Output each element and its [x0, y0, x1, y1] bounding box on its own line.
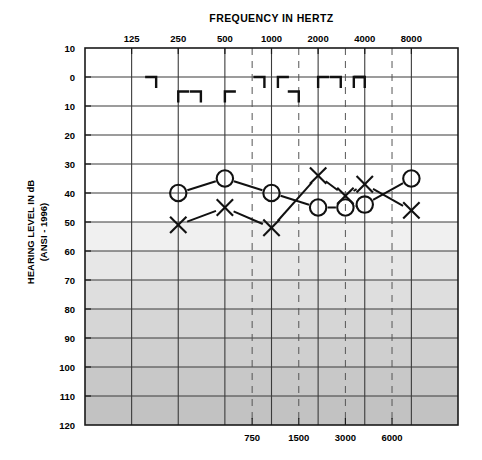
x-tick-label-2000: 2000: [308, 33, 329, 44]
y-tick-label-40: 40: [64, 188, 75, 199]
x-tick-label-8000: 8000: [401, 33, 422, 44]
y-tick-label-10: 10: [64, 101, 75, 112]
bone-conduction-bracket-8: [330, 77, 341, 88]
bone-conduction-bracket-5: [278, 77, 289, 88]
y-tick-label--10: 10: [64, 43, 75, 54]
y-tick-label-20: 20: [64, 130, 75, 141]
x-half-label-3000: 3000: [335, 432, 356, 443]
bone-conduction-bracket-7: [318, 77, 329, 88]
y-tick-label-70: 70: [64, 275, 75, 286]
x-tick-label-125: 125: [124, 33, 141, 44]
bone-conduction-bracket-3: [225, 92, 236, 103]
x-tick-label-4000: 4000: [354, 33, 375, 44]
chart-title: FREQUENCY IN HERTZ: [209, 12, 333, 24]
x-half-label-1500: 1500: [288, 432, 309, 443]
y-axis-title: HEARING LEVEL IN dB: [25, 180, 36, 284]
y-tick-label-90: 90: [64, 333, 75, 344]
bone-conduction-bracket-2: [190, 92, 201, 103]
connector-circle-1: [234, 181, 262, 190]
bone-conduction-bracket-0: [145, 77, 156, 88]
bone-conduction-bracket-1: [178, 92, 189, 103]
x-tick-label-1000: 1000: [261, 33, 282, 44]
y-tick-label-100: 100: [59, 362, 75, 373]
x-half-label-750: 750: [244, 432, 260, 443]
x-tick-label-500: 500: [217, 33, 233, 44]
x-tick-label-250: 250: [170, 33, 186, 44]
x-half-label-6000: 6000: [381, 432, 402, 443]
connector-circle-2: [281, 196, 309, 205]
connector-X-4: [354, 189, 357, 191]
connector-X-0: [187, 211, 216, 222]
y-tick-label-60: 60: [64, 246, 75, 257]
bone-conduction-bracket-6: [288, 92, 299, 103]
y-tick-label-30: 30: [64, 159, 75, 170]
connector-X-2: [278, 183, 312, 221]
y-tick-label-50: 50: [64, 217, 75, 228]
y-tick-label-120: 120: [59, 420, 75, 431]
audiogram-chart: 1252505001000200040008000750150030006000…: [0, 0, 482, 460]
y-tick-label-110: 110: [60, 391, 75, 402]
bone-conduction-bracket-10: [354, 77, 365, 88]
y-tick-label-0: 0: [70, 72, 75, 83]
audiogram-svg: 1252505001000200040008000750150030006000…: [0, 0, 482, 460]
bone-conduction-bracket-4: [253, 77, 264, 88]
connector-circle-0: [187, 181, 215, 190]
y-axis-subtitle: (ANSI - 1996): [38, 203, 49, 262]
y-tick-label-80: 80: [64, 304, 75, 315]
connector-X-3: [326, 181, 338, 190]
bone-conduction-bracket-9: [354, 77, 365, 88]
